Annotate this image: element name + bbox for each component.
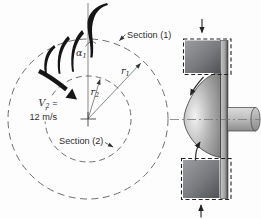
section-2-label: Section (2) [59,136,103,146]
v2-flow-arrow-shaft [39,71,67,90]
r1-label: r1 [121,65,130,79]
guide-vane-1 [44,45,55,75]
center-mark [81,112,97,127]
textbook-figure: Section (1) Section (2) r1 r2 α1 V2 = 12… [0,0,261,219]
r2-label: r2 [91,86,100,100]
alpha1-label: α1 [76,47,87,61]
v2-value-label: 12 m/s [30,112,58,122]
rotor-hub [184,72,221,158]
section-1-label: Section (1) [127,30,171,40]
guide-vane-2 [58,36,70,74]
flow-streamline [87,3,108,58]
diagram-canvas: Section (1) Section (2) r1 r2 α1 V2 = 12… [0,0,261,219]
section-2-leader [105,143,113,148]
lower-casing-block [183,160,220,198]
upper-casing-block [185,41,221,74]
v2-flow-arrow-head [66,89,78,100]
top-view-diagram: Section (1) Section (2) r1 r2 α1 V2 = 12… [8,3,171,199]
section-1-leader [120,35,126,41]
cross-section-diagram [170,19,260,218]
